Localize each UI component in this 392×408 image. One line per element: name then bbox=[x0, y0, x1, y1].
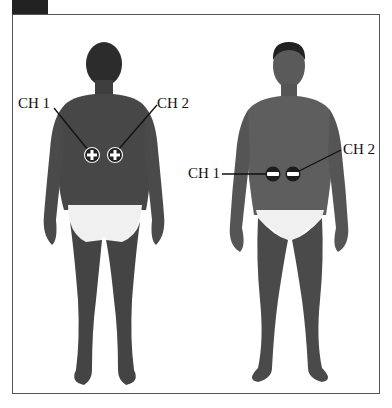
back-figure bbox=[44, 42, 165, 385]
body-diagram bbox=[0, 0, 392, 408]
back-ch2-label: CH 2 bbox=[157, 96, 189, 111]
front-electrode-ch2-minus-icon bbox=[286, 167, 301, 182]
back-electrode-ch1-plus-icon bbox=[85, 148, 100, 163]
front-electrode-ch1-minus-icon bbox=[266, 167, 281, 182]
back-electrode-ch2-plus-icon bbox=[108, 148, 123, 163]
front-ch2-label: CH 2 bbox=[343, 142, 375, 157]
front-ch1-label: CH 1 bbox=[188, 166, 220, 181]
front-figure bbox=[230, 42, 349, 382]
back-ch1-label: CH 1 bbox=[18, 96, 50, 111]
